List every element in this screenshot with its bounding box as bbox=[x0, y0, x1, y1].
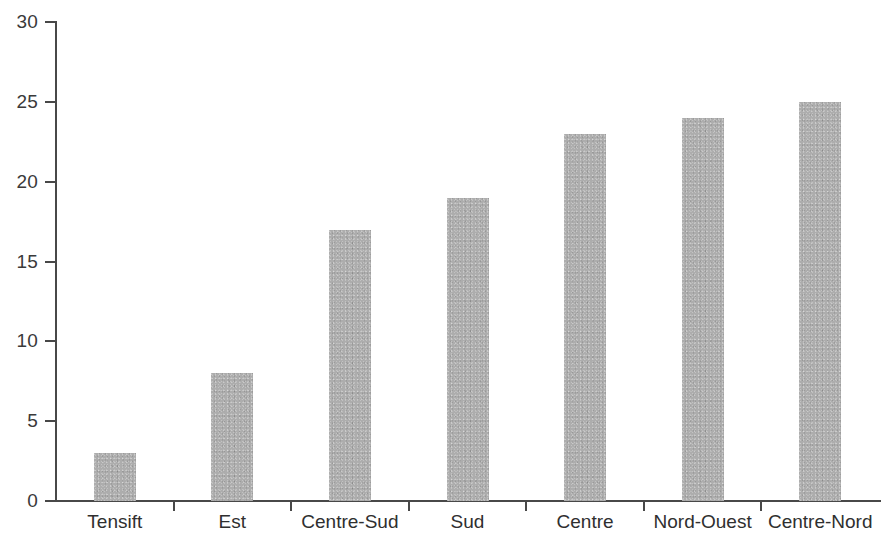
bar bbox=[94, 453, 136, 501]
x-axis-label: Centre-Sud bbox=[291, 511, 409, 533]
x-axis-label: Est bbox=[174, 511, 292, 533]
x-axis-label: Sud bbox=[409, 511, 527, 533]
x-axis-label: Centre-Nord bbox=[761, 511, 879, 533]
x-axis-tick bbox=[525, 502, 527, 511]
y-axis-tick-label: 0 bbox=[0, 491, 38, 510]
x-axis-label: Centre bbox=[526, 511, 644, 533]
bar bbox=[682, 118, 724, 501]
y-axis-tick-label: 25 bbox=[0, 92, 38, 111]
x-axis-tick bbox=[760, 502, 762, 511]
y-axis-tick-label: 15 bbox=[0, 252, 38, 271]
bar-chart: 051015202530 TensiftEstCentre-SudSudCent… bbox=[0, 0, 881, 535]
bar bbox=[564, 134, 606, 501]
bar bbox=[211, 373, 253, 501]
y-axis-tick bbox=[45, 500, 55, 502]
bar bbox=[447, 198, 489, 501]
x-axis-label: Nord-Ouest bbox=[644, 511, 762, 533]
y-axis-tick bbox=[45, 21, 55, 23]
plot-area: 051015202530 TensiftEstCentre-SudSudCent… bbox=[0, 0, 881, 535]
y-axis-line bbox=[55, 21, 57, 502]
y-axis-tick bbox=[45, 261, 55, 263]
y-axis-tick-label: 30 bbox=[0, 12, 38, 31]
y-axis-tick-label: 10 bbox=[0, 331, 38, 350]
x-axis-tick bbox=[643, 502, 645, 511]
y-axis-tick bbox=[45, 181, 55, 183]
bar bbox=[799, 102, 841, 501]
x-axis-tick bbox=[290, 502, 292, 511]
x-axis-label: Tensift bbox=[56, 511, 174, 533]
y-axis-tick-label: 20 bbox=[0, 172, 38, 191]
bar bbox=[329, 230, 371, 501]
x-axis-tick bbox=[408, 502, 410, 511]
x-axis-tick bbox=[173, 502, 175, 511]
y-axis-tick bbox=[45, 340, 55, 342]
y-axis-tick bbox=[45, 101, 55, 103]
y-axis-tick-label: 5 bbox=[0, 411, 38, 430]
y-axis-tick bbox=[45, 420, 55, 422]
